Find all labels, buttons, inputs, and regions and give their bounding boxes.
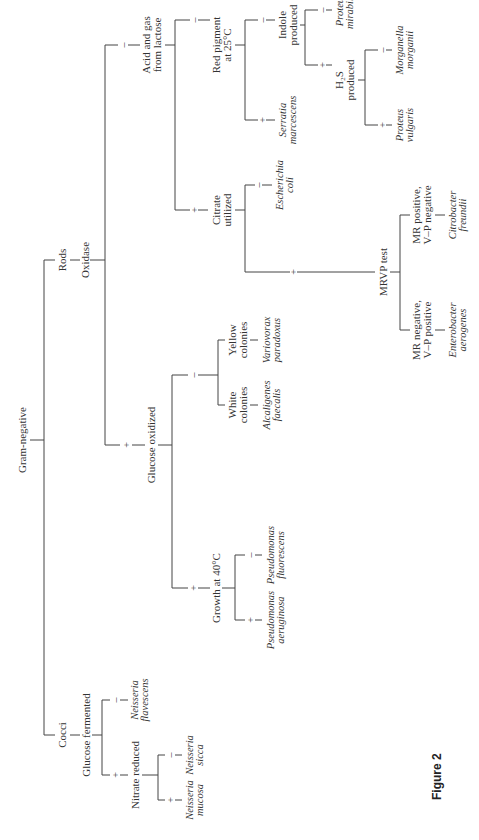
sign-plus: +: [245, 617, 256, 623]
test-growth-40c: Growth at 40°C: [211, 553, 222, 623]
sign-plus: +: [188, 585, 199, 591]
organism-citrobacter-freundii: Citrobacterfreundii: [448, 191, 468, 240]
sign-plus: +: [165, 797, 176, 803]
organism-proteus-vulgaris: Proteusvulgaris: [395, 108, 415, 142]
test-red-pigment: Red pigmentat 25°C: [211, 17, 233, 74]
organism-alcaligenes-faecalis: Alcaligenesfaecalis: [262, 381, 282, 430]
figure-label: Figure 2: [430, 753, 444, 800]
sign-minus: –: [253, 183, 264, 188]
organism-pseudomonas-aeruginosa: Pseudomonasaeruginosa: [266, 591, 286, 649]
sign-minus: –: [165, 753, 176, 758]
test-oxidase: Oxidase: [80, 242, 91, 278]
sign-plus: +: [121, 442, 132, 448]
test-yellow-colonies: Yellowcolonies: [227, 322, 249, 359]
test-citrate-utilized: Citrateutilized: [211, 194, 233, 227]
organism-enterobacter-aerogenes: Enterobacteraerogenes: [448, 302, 468, 357]
test-mr-negative: MR negative,V–P positive: [411, 300, 433, 360]
sign-plus: +: [110, 772, 121, 778]
test-mr-positive: MR positive,V–P negative: [411, 185, 433, 244]
root-label: Gram-negative: [17, 407, 28, 473]
organism-neisseria-flavescens: Neisseriaflavescens: [130, 678, 150, 721]
sign-minus: –: [118, 43, 129, 48]
test-glucose-fermented: Glucose fermented: [81, 693, 92, 776]
cocci-label: Cocci: [57, 722, 68, 748]
dichotomous-key-diagram: Gram-negative Cocci Glucose fermented + …: [0, 0, 479, 840]
organism-escherichia-coli: Escherichiacoli: [275, 160, 295, 210]
organism-neisseria-sicca: Neisseriasicca: [185, 735, 205, 775]
sign-minus: –: [189, 18, 200, 23]
sign-plus: +: [377, 122, 388, 128]
organism-proteus-mirabilis: Proteusmirabilis: [335, 0, 355, 29]
sign-minus: –: [110, 698, 121, 703]
sign-minus: –: [317, 8, 328, 13]
sign-plus: +: [317, 62, 328, 68]
sign-minus: –: [257, 18, 268, 23]
test-glucose-oxidized: Glucose oxidized: [146, 407, 157, 484]
test-white-colonies: Whitecolonies: [227, 387, 249, 424]
test-mrvp: MRVP test: [378, 248, 389, 296]
organism-serratia-marcescens: Serratiamarcescens: [278, 96, 298, 145]
sign-plus: +: [257, 117, 268, 123]
sign-minus: –: [377, 48, 388, 53]
organism-morganella-morganii: Morganellamorganii: [395, 25, 415, 74]
organism-pseudomonas-fluorescens: Pseudomonasfluorescens: [266, 526, 286, 584]
test-nitrate-reduced: Nitrate reduced: [130, 741, 141, 809]
sign-minus: –: [245, 553, 256, 558]
test-acid-gas-lactose: Acid and gasfrom lactose: [141, 16, 163, 73]
organism-variovorax-paradoxus: Variovoraxparadoxus: [262, 317, 282, 364]
sign-plus: +: [288, 269, 299, 275]
sign-plus: +: [189, 207, 200, 213]
test-h2s-produced: H₂Sproduced: [334, 60, 356, 101]
organism-neisseria-mucosa: Neisseriamucosa: [185, 780, 205, 820]
sign-minus: –: [188, 373, 199, 378]
test-indole-produced: Indoleproduced: [277, 5, 299, 46]
rods-label: Rods: [57, 249, 68, 272]
